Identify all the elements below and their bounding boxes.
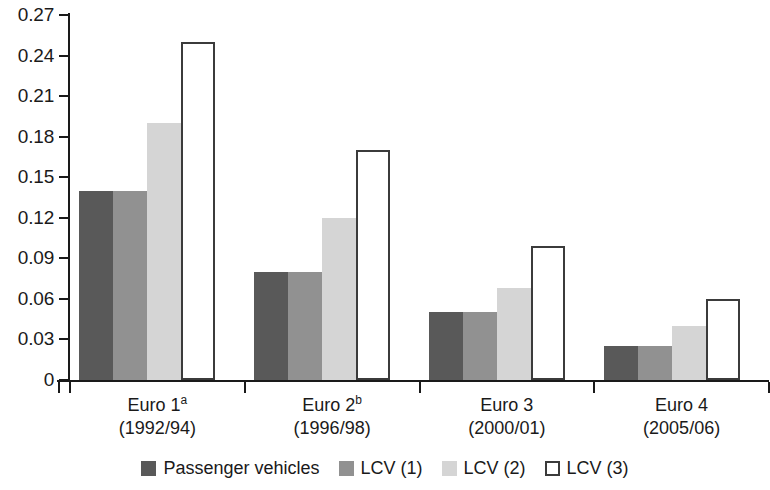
bar-euro-2-lcv-3 [356, 150, 390, 380]
x-axis-label-years: (1996/98) [245, 417, 420, 440]
y-axis-tick [59, 298, 69, 300]
bar-euro-2-lcv-1 [288, 272, 322, 380]
legend-item-lcv-1: LCV (1) [339, 458, 423, 478]
y-axis-tick [59, 55, 69, 57]
legend-item-label: LCV (2) [464, 458, 526, 478]
bar-euro-3-lcv-3 [531, 246, 565, 380]
y-axis-tick-label: 0.06 [18, 289, 54, 308]
chart-legend: Passenger vehiclesLCV (1)LCV (2)LCV (3) [0, 458, 770, 478]
bar-euro-4-lcv-2 [672, 326, 706, 380]
x-axis-label-name: Euro 2 [302, 395, 355, 415]
y-axis-tick [59, 95, 69, 97]
bar-euro-2-passenger-vehicles [254, 272, 288, 380]
y-axis-tick [59, 257, 69, 259]
y-axis-tick-label: 0.15 [18, 167, 54, 186]
y-axis-line [68, 13, 70, 382]
bar-euro-1-lcv-3 [181, 42, 215, 380]
bar-euro-1-passenger-vehicles [79, 191, 113, 380]
legend-item-passenger-vehicles: Passenger vehicles [141, 458, 319, 478]
y-axis-tick-label: 0.21 [18, 86, 54, 105]
x-axis-label-years: (1992/94) [70, 417, 245, 440]
x-axis-label-euro-2: Euro 2b(1996/98) [245, 394, 420, 440]
x-axis-label-years: (2000/01) [420, 417, 595, 440]
x-axis-label-years: (2005/06) [594, 417, 769, 440]
legend-item-label: LCV (1) [361, 458, 423, 478]
y-axis-tick-label: 0.03 [18, 329, 54, 348]
y-axis-tick [59, 338, 69, 340]
bar-euro-3-passenger-vehicles [429, 312, 463, 380]
bar-euro-2-lcv-2 [322, 218, 356, 380]
x-axis-group-tick [69, 382, 71, 393]
bar-euro-4-passenger-vehicles [604, 346, 638, 380]
light-gray-swatch [442, 461, 457, 476]
bar-euro-1-lcv-1 [113, 191, 147, 380]
x-axis-label-name: Euro 4 [655, 395, 708, 415]
x-axis-group-tick [419, 382, 421, 393]
bar-euro-4-lcv-1 [638, 346, 672, 380]
y-axis-tick-label: 0.24 [18, 46, 54, 65]
y-axis-tick-label: 0 [44, 370, 54, 389]
y-axis-tick [59, 136, 69, 138]
bar-chart: 00.030.060.090.120.150.180.210.240.27 Eu… [0, 0, 770, 490]
dark-gray-swatch [141, 461, 156, 476]
x-axis-group-tick [244, 382, 246, 393]
x-axis-label-euro-3: Euro 3(2000/01) [420, 394, 595, 440]
x-axis-line [57, 380, 769, 382]
bar-euro-4-lcv-3 [706, 299, 740, 380]
y-axis-tick-label: 0.27 [18, 5, 54, 24]
legend-item-label: LCV (3) [567, 458, 629, 478]
legend-item-lcv-2: LCV (2) [442, 458, 526, 478]
legend-item-label: Passenger vehicles [163, 458, 319, 478]
x-axis-group-tick [593, 382, 595, 393]
bar-euro-3-lcv-1 [463, 312, 497, 380]
y-axis-tick [59, 176, 69, 178]
y-axis-tick [59, 217, 69, 219]
x-axis-label-footnote-marker: a [181, 393, 188, 407]
y-axis-tick-label: 0.12 [18, 208, 54, 227]
y-axis-tick-label: 0.18 [18, 127, 54, 146]
x-axis-label-euro-4: Euro 4(2005/06) [594, 394, 769, 440]
y-axis-tick [59, 14, 69, 16]
bar-euro-3-lcv-2 [497, 288, 531, 380]
x-axis-label-name: Euro 1 [128, 395, 181, 415]
x-axis-label-footnote-marker: b [355, 393, 362, 407]
white-outline-swatch [545, 461, 560, 476]
x-axis-label-name: Euro 3 [480, 395, 533, 415]
bar-euro-1-lcv-2 [147, 123, 181, 380]
legend-item-lcv-3: LCV (3) [545, 458, 629, 478]
x-axis-label-euro-1: Euro 1a(1992/94) [70, 394, 245, 440]
x-axis-origin-tick [58, 382, 60, 393]
medium-gray-swatch [339, 461, 354, 476]
y-axis-tick-label: 0.09 [18, 248, 54, 267]
